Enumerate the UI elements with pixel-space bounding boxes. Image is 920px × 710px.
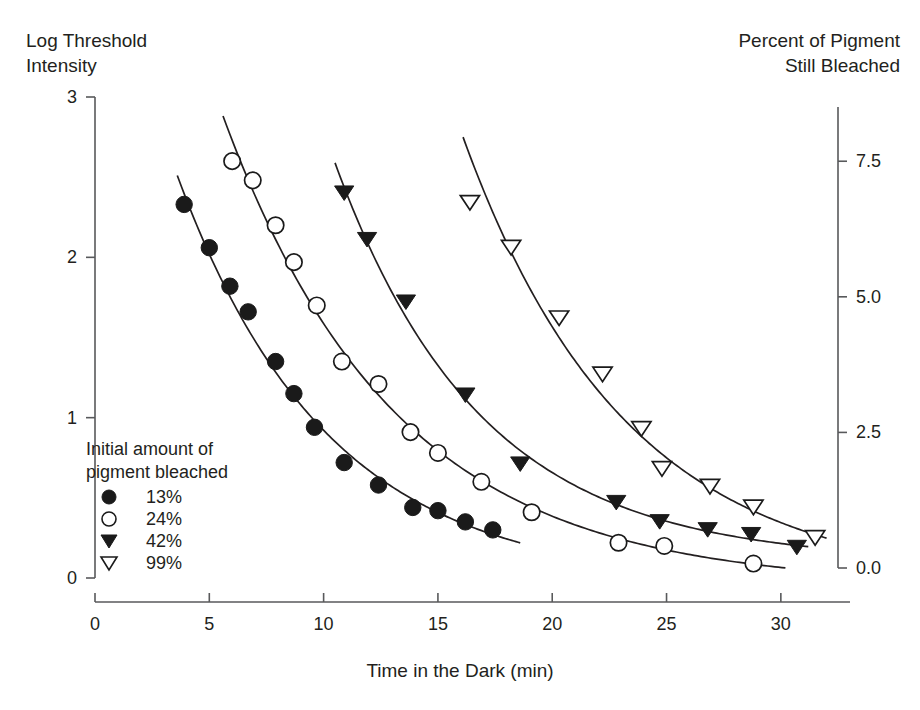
data-point-13pct <box>240 304 256 320</box>
plot-canvas: 01230.02.55.07.5051015202530 <box>0 0 920 710</box>
legend-row-99pct[interactable]: 99% <box>86 552 182 574</box>
data-point-24pct <box>610 535 626 551</box>
data-point-24pct <box>267 217 283 233</box>
fit-curve-24pct <box>223 116 785 568</box>
open-triangle-down-icon <box>86 552 132 574</box>
dark-adaptation-chart: Log Threshold Intensity Percent of Pigme… <box>0 0 920 710</box>
legend-label: 13% <box>146 487 182 508</box>
data-point-99pct <box>806 531 825 546</box>
legend-row-24pct[interactable]: 24% <box>86 508 182 530</box>
data-point-99pct <box>652 462 671 477</box>
right-axis-tick-label: 5.0 <box>856 287 881 307</box>
legend-label: 24% <box>146 509 182 530</box>
data-point-13pct <box>176 196 192 212</box>
data-point-24pct <box>402 424 418 440</box>
data-point-42pct <box>511 457 530 472</box>
data-point-13pct <box>201 240 217 256</box>
legend-label: 99% <box>146 553 182 574</box>
legend-label: 42% <box>146 531 182 552</box>
data-point-24pct <box>430 445 446 461</box>
right-axis-tick-label: 7.5 <box>856 151 881 171</box>
right-axis-tick-label: 2.5 <box>856 422 881 442</box>
data-point-13pct <box>430 502 446 518</box>
legend-row-13pct[interactable]: 13% <box>86 486 182 508</box>
fit-curve-99pct <box>463 137 827 538</box>
data-point-24pct <box>334 353 350 369</box>
x-axis-title: Time in the Dark (min) <box>0 658 920 683</box>
data-point-13pct <box>457 514 473 530</box>
data-point-13pct <box>306 419 322 435</box>
data-point-13pct <box>485 522 501 538</box>
data-points-layer <box>176 153 825 572</box>
left-axis-tick-label: 3 <box>67 87 77 107</box>
data-point-42pct <box>396 295 415 310</box>
data-point-42pct <box>357 232 376 247</box>
filled-circle-icon <box>86 486 132 508</box>
data-point-24pct <box>370 376 386 392</box>
data-point-24pct <box>473 474 489 490</box>
left-axis-tick-label: 0 <box>67 568 77 588</box>
data-point-13pct <box>286 385 302 401</box>
data-point-42pct <box>787 540 806 555</box>
filled-triangle-down-icon <box>86 530 132 552</box>
x-axis-tick-label: 5 <box>204 614 214 634</box>
data-point-13pct <box>405 499 421 515</box>
data-point-24pct <box>745 555 761 571</box>
left-axis-tick-label: 2 <box>67 247 77 267</box>
data-point-99pct <box>593 367 612 382</box>
x-axis-tick-label: 10 <box>314 614 334 634</box>
data-point-13pct <box>336 454 352 470</box>
x-axis-tick-label: 30 <box>771 614 791 634</box>
data-point-13pct <box>267 353 283 369</box>
data-point-13pct <box>370 477 386 493</box>
x-axis-tick-label: 0 <box>90 614 100 634</box>
x-axis-tick-label: 25 <box>657 614 677 634</box>
legend-row-42pct[interactable]: 42% <box>86 530 182 552</box>
x-axis-tick-label: 15 <box>428 614 448 634</box>
data-point-42pct <box>335 186 354 201</box>
data-point-24pct <box>286 254 302 270</box>
data-point-24pct <box>523 504 539 520</box>
fit-curves-layer <box>177 116 826 568</box>
legend-title: Initial amount of pigment bleached <box>86 438 228 484</box>
x-axis-tick-label: 20 <box>542 614 562 634</box>
open-circle-icon <box>86 508 132 530</box>
data-point-24pct <box>245 172 261 188</box>
data-point-24pct <box>309 297 325 313</box>
right-axis-tick-label: 0.0 <box>856 558 881 578</box>
data-point-99pct <box>460 196 479 211</box>
left-axis-tick-label: 1 <box>67 408 77 428</box>
legend: 13%24%42%99% <box>86 486 182 574</box>
data-point-99pct <box>549 311 568 326</box>
data-point-24pct <box>656 538 672 554</box>
data-point-13pct <box>222 278 238 294</box>
data-point-42pct <box>456 388 475 403</box>
data-point-99pct <box>501 240 520 255</box>
axes-layer: 01230.02.55.07.5051015202530 <box>67 87 881 634</box>
data-point-24pct <box>224 153 240 169</box>
